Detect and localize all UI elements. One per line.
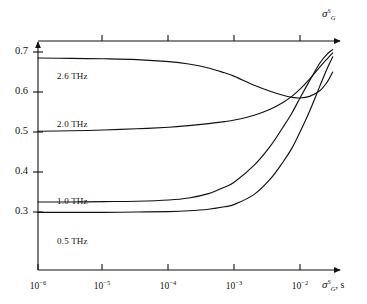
x-tick-label-1e-4: 10−4 xyxy=(151,280,185,292)
curve-label-2-0-thz: 2.0 THz xyxy=(57,120,88,129)
y-tick-label-0.6: 0.6 xyxy=(4,86,28,97)
curve-label-1-0-thz: 1.0 THz xyxy=(57,197,88,206)
top-axis-subscript: G xyxy=(331,14,336,21)
x-axis-superscript: S xyxy=(327,278,330,285)
x-axis-unit: , s xyxy=(335,279,344,290)
curve-label-2-6-thz: 2.6 THz xyxy=(57,72,88,81)
y-tick-label-0.5: 0.5 xyxy=(4,126,28,137)
x-tick-label-1e-6: 10−6 xyxy=(21,280,55,292)
top-axis-title: σSG xyxy=(322,8,335,22)
x-tick-label-1e-5: 10−5 xyxy=(85,280,119,292)
y-tick-label-0.7: 0.7 xyxy=(4,46,28,57)
plot-canvas xyxy=(0,0,367,304)
y-tick-label-0.3: 0.3 xyxy=(4,206,28,217)
x-tick-label-1e-2: 10−2 xyxy=(283,280,317,292)
curve-label-0-5-thz: 0.5 THz xyxy=(57,237,88,246)
y-tick-label-0.4: 0.4 xyxy=(4,166,28,177)
top-axis-superscript: S xyxy=(327,7,330,14)
chart-figure: 0.7 0.6 0.5 0.4 0.3 10−6 10−5 10−4 10−3 … xyxy=(0,0,367,304)
x-tick-label-1e-3: 10−3 xyxy=(217,280,251,292)
x-axis-title: σSG, s xyxy=(322,279,344,293)
